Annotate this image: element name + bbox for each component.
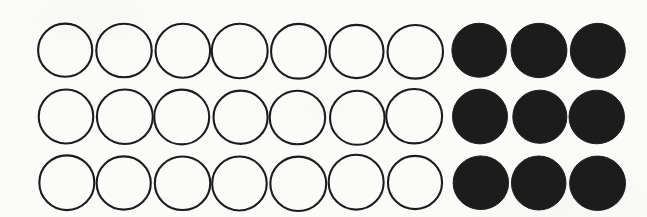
open-circle <box>38 24 92 77</box>
open-circle <box>156 24 211 78</box>
open-circle <box>96 24 151 78</box>
open-circle <box>388 25 443 79</box>
filled-circle <box>453 156 508 210</box>
open-circle <box>329 25 383 78</box>
open-circle <box>212 157 267 211</box>
filled-circle <box>452 23 507 77</box>
open-circle <box>214 91 268 144</box>
grid-layer <box>38 23 625 211</box>
open-circle <box>271 24 326 79</box>
filled-circle <box>570 23 625 78</box>
open-circle <box>270 157 326 211</box>
circle-row <box>39 155 625 211</box>
open-circle <box>39 155 94 210</box>
filled-circle <box>513 90 567 143</box>
filled-circle <box>511 23 567 77</box>
filled-circle <box>511 156 566 210</box>
open-circle <box>39 89 94 143</box>
open-circle <box>388 156 442 209</box>
open-circle <box>212 24 268 78</box>
circle-row <box>39 89 625 145</box>
circle-row <box>38 23 625 78</box>
filled-circle <box>570 156 626 210</box>
open-circle <box>386 89 442 143</box>
open-circle <box>329 155 384 210</box>
circle-grid-canvas <box>0 0 647 217</box>
filled-circle <box>453 89 508 144</box>
open-circle <box>97 90 153 144</box>
open-circle <box>330 91 385 145</box>
open-circle <box>154 90 209 145</box>
open-circle <box>97 156 151 209</box>
open-circle <box>270 91 325 145</box>
open-circle <box>155 156 210 210</box>
filled-circle <box>569 90 624 144</box>
circle-grid-diagram <box>0 0 647 217</box>
